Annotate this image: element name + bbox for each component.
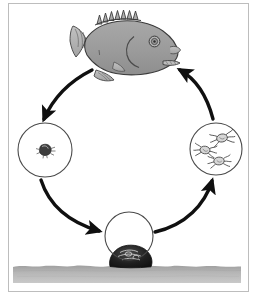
fish-icon — [70, 10, 181, 81]
egg-stage-node — [105, 212, 153, 268]
arrow-eggs-to-adults — [155, 181, 212, 232]
arrow-adults-to-fish — [180, 70, 213, 119]
arrow-fish-to-larva — [44, 70, 92, 119]
diagram-canvas — [0, 0, 258, 296]
arrow-larva-to-eggs — [41, 180, 99, 231]
life-cycle-figure: Parasite life cycle diagram — [0, 0, 258, 296]
larva-stage-node — [18, 123, 72, 177]
adult-stage-circle — [190, 123, 242, 175]
adult-stage-node — [190, 123, 242, 175]
